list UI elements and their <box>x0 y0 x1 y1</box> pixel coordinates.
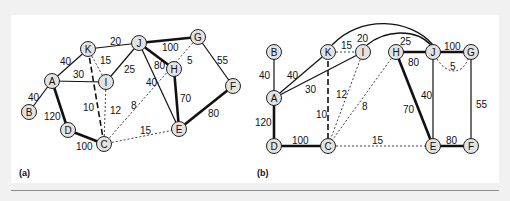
weight-a-IJ: 25 <box>124 64 136 75</box>
node-a-E: E <box>172 122 187 137</box>
svg-text:H: H <box>170 64 177 75</box>
node-a-F: F <box>226 79 241 94</box>
weight-b-JG: 100 <box>444 41 461 52</box>
node-b-D: D <box>267 139 282 154</box>
weight-b-AI: 30 <box>305 84 317 95</box>
node-b-J: J <box>426 45 441 60</box>
node-b-E: E <box>426 139 441 154</box>
weight-a-HE: 70 <box>180 93 192 104</box>
weight-b-JG2: 5 <box>450 61 456 72</box>
svg-text:C: C <box>100 139 107 150</box>
weight-a-JH: 80 <box>154 60 166 71</box>
node-b-C: C <box>321 139 336 154</box>
weight-b-DC: 100 <box>292 135 309 146</box>
weight-a-AI: 30 <box>73 69 85 80</box>
svg-text:A: A <box>49 76 56 87</box>
node-a-B: B <box>22 105 37 120</box>
weight-b-KJ: 20 <box>357 33 369 44</box>
svg-text:E: E <box>176 124 183 135</box>
weight-b-HC: 8 <box>362 101 368 112</box>
weight-b-HJ: 80 <box>408 57 420 68</box>
weight-b-GF: 55 <box>476 99 488 110</box>
svg-text:D: D <box>64 125 71 136</box>
svg-text:C: C <box>324 141 331 152</box>
node-a-H: H <box>167 62 182 77</box>
svg-text:B: B <box>26 107 33 118</box>
weight-a-AB: 40 <box>28 92 40 103</box>
graph-b-edges <box>274 24 471 146</box>
svg-text:G: G <box>467 47 475 58</box>
svg-text:K: K <box>85 44 92 55</box>
node-a-K: K <box>81 42 96 57</box>
weight-a-AD: 120 <box>44 111 61 122</box>
svg-text:J: J <box>431 47 436 58</box>
node-a-C: C <box>97 137 112 152</box>
graph-a-edges <box>29 37 233 144</box>
node-b-F: F <box>464 139 479 154</box>
weight-b-IC: 12 <box>336 89 348 100</box>
weight-a-GH: 5 <box>187 55 193 66</box>
svg-text:G: G <box>194 32 202 43</box>
svg-text:H: H <box>392 47 399 58</box>
weight-b-KI: 15 <box>341 40 353 51</box>
svg-text:K: K <box>325 47 332 58</box>
svg-text:E: E <box>430 141 437 152</box>
weight-a-KI: 15 <box>100 55 112 66</box>
svg-text:A: A <box>271 93 278 104</box>
weight-b-IJ: 25 <box>400 36 412 47</box>
weight-a-IC: 12 <box>110 105 122 116</box>
svg-text:F: F <box>468 141 474 152</box>
weight-a-AK: 40 <box>60 56 72 67</box>
svg-text:B: B <box>271 47 278 58</box>
weight-b-JE: 40 <box>421 90 433 101</box>
weight-b-KC: 10 <box>316 109 328 120</box>
node-a-G: G <box>191 30 206 45</box>
weight-a-JG: 100 <box>162 42 179 53</box>
weight-a-KJ: 20 <box>110 36 122 47</box>
svg-text:I: I <box>105 77 108 88</box>
node-a-J: J <box>132 36 147 51</box>
caption-a: (a) <box>19 168 30 178</box>
node-b-K: K <box>321 45 336 60</box>
svg-text:D: D <box>270 141 277 152</box>
weight-a-KC: 10 <box>83 102 95 113</box>
node-b-H: H <box>389 45 404 60</box>
weight-b-CE: 15 <box>372 135 384 146</box>
svg-text:F: F <box>230 81 236 92</box>
node-a-I: I <box>99 75 114 90</box>
node-a-D: D <box>61 123 76 138</box>
weight-a-GF: 55 <box>217 55 229 66</box>
weight-b-HE: 70 <box>403 104 415 115</box>
weight-a-GC: 8 <box>131 100 137 111</box>
node-b-G: G <box>464 45 479 60</box>
weight-a-FE: 80 <box>208 108 220 119</box>
node-b-A: A <box>267 91 282 106</box>
weight-a-DC: 100 <box>76 141 93 152</box>
weight-b-AK: 40 <box>287 70 299 81</box>
weight-b-EF: 80 <box>446 135 458 146</box>
svg-text:I: I <box>362 47 365 58</box>
node-b-B: B <box>267 45 282 60</box>
graph-a-weights: 40 40 30 120 100 20 15 10 25 12 100 80 4… <box>28 36 229 152</box>
node-a-A: A <box>45 74 60 89</box>
caption-b: (b) <box>257 168 269 178</box>
svg-text:J: J <box>137 38 142 49</box>
weight-a-CE: 15 <box>140 125 152 136</box>
node-b-I: I <box>356 45 371 60</box>
weight-a-JE: 40 <box>146 77 158 88</box>
graph-figure: 40 40 30 120 100 20 15 10 25 12 100 80 4… <box>0 0 510 201</box>
weight-b-AD: 120 <box>255 117 272 128</box>
weight-b-AB: 40 <box>259 70 271 81</box>
